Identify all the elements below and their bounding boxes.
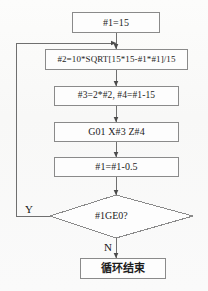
node-move[interactable]: G01 X#3 Z#4	[54, 122, 179, 142]
node-init-label: #1=15	[103, 18, 129, 28]
node-calc34-label: #3=2*#2, #4=#1-15	[78, 91, 155, 101]
flowchart-canvas: #1=15 #2=10*SQRT[15*15-#1*#1]/15 #3=2*#2…	[0, 0, 208, 291]
edge-label-no-text: N	[104, 241, 112, 253]
edge-label-no: N	[104, 242, 112, 253]
node-decr-label: #1=#1-0.5	[95, 162, 137, 172]
node-calc2-label: #2=10*SQRT[15*15-#1*#1]/15	[57, 55, 175, 64]
node-test-label: #1GE0?	[95, 210, 128, 221]
node-move-label: G01 X#3 Z#4	[88, 127, 145, 137]
node-calc2[interactable]: #2=10*SQRT[15*15-#1*#1]/15	[45, 49, 188, 70]
node-decr[interactable]: #1=#1-0.5	[54, 157, 179, 177]
edge-label-yes-text: Y	[25, 203, 33, 215]
node-end-label: 循环结束	[101, 263, 145, 274]
node-end[interactable]: 循环结束	[80, 258, 166, 279]
edge-label-yes: Y	[25, 204, 33, 215]
node-init[interactable]: #1=15	[72, 12, 160, 33]
node-test[interactable]: #1GE0?	[95, 211, 128, 221]
node-calc34[interactable]: #3=2*#2, #4=#1-15	[54, 86, 179, 106]
